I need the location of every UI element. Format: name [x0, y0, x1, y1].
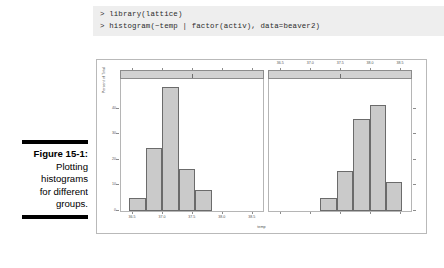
top-axis-tick-label: 38.0	[367, 61, 374, 65]
bottom-axis-tick	[340, 212, 341, 214]
code-line-2: > histogram(~temp | factor(activ), data=…	[100, 21, 444, 33]
histogram-bar	[195, 190, 211, 211]
bottom-axis-tick-label: 36.5	[128, 215, 135, 219]
histogram-bar	[146, 148, 162, 211]
y-axis-tick-mark-right	[413, 159, 416, 160]
y-axis-tick-label: 30	[104, 131, 116, 135]
bottom-axis-tick	[192, 212, 193, 214]
bars-1	[269, 79, 411, 211]
panel-body-0	[120, 79, 264, 212]
histogram-panel-0	[120, 70, 264, 212]
bottom-axis-tick	[400, 212, 401, 214]
top-axis-tick-label: 38.5	[397, 61, 404, 65]
top-axis-tick-label: 37.0	[307, 61, 314, 65]
bottom-axis-tick	[280, 212, 281, 214]
caption-line-1: Plotting	[0, 161, 88, 174]
strip-header-0	[120, 70, 264, 79]
strip-header-1	[268, 70, 412, 79]
r-console-code-block: > library(lattice) > histogram(~temp | f…	[93, 6, 444, 36]
bottom-axis-tick	[222, 212, 223, 214]
histogram-panel-1	[268, 70, 412, 212]
caption-rule-bottom	[22, 215, 88, 219]
bottom-axis-tick-label: 38.0	[218, 215, 225, 219]
histogram-bar	[386, 182, 402, 211]
panel-body-1	[268, 79, 412, 212]
y-axis-tick-mark	[116, 184, 119, 185]
histogram-bar	[320, 198, 336, 211]
caption-line-2: histograms	[0, 173, 88, 186]
y-axis-tick-mark-right	[413, 108, 416, 109]
y-axis-tick-mark	[116, 108, 119, 109]
bottom-axis-tick-label: 37.5	[188, 215, 195, 219]
y-axis-tick-label: 20	[104, 157, 116, 161]
y-axis-tick-label: 10	[104, 182, 116, 186]
x-axis-title: temp	[97, 225, 426, 229]
figure-caption: Figure 15-1: Plotting histograms for dif…	[0, 140, 94, 219]
bottom-axis-tick-label: 38.5	[248, 215, 255, 219]
code-line-1: > library(lattice)	[100, 9, 444, 21]
y-axis-tick-labels: 010203040	[103, 82, 116, 210]
histogram-bar	[370, 105, 386, 211]
bottom-axis-tick	[132, 212, 133, 214]
top-axis-tick-label: 37.5	[337, 61, 344, 65]
histogram-bar	[179, 169, 195, 211]
y-axis-tick-mark	[116, 159, 119, 160]
plot-inner-area: Percent of Total temp 010203040 36.537.0…	[97, 60, 426, 233]
caption-rule-top	[22, 140, 88, 144]
y-axis-tick-mark-right	[413, 210, 416, 211]
strip-tick-1	[340, 74, 341, 78]
bars-0	[121, 79, 263, 211]
bottom-axis-tick-label: 37.0	[158, 215, 165, 219]
y-axis-tick-mark	[116, 133, 119, 134]
histogram-bar	[337, 171, 353, 211]
bottom-axis-tick	[162, 212, 163, 214]
panel-row	[120, 70, 412, 212]
histogram-bar	[353, 119, 369, 211]
y-axis-tick-marks-right	[412, 82, 416, 210]
bottom-axis-tick	[310, 212, 311, 214]
bottom-axis-tick	[252, 212, 253, 214]
figure-number: Figure 15-1:	[0, 148, 88, 161]
histogram-bar	[129, 198, 145, 211]
strip-tick-0	[192, 74, 193, 78]
y-axis-tick-label: 40	[104, 106, 116, 110]
y-axis-tick-mark-right	[413, 133, 416, 134]
lattice-histogram-figure: Percent of Total temp 010203040 36.537.0…	[96, 59, 427, 234]
y-axis-tick-label: 0	[104, 208, 116, 212]
y-axis-tick-mark	[116, 210, 119, 211]
y-axis-tick-mark-right	[413, 184, 416, 185]
bottom-axis-tick	[370, 212, 371, 214]
top-axis-tick-label: 36.5	[277, 61, 284, 65]
caption-line-3: for different	[0, 186, 88, 199]
caption-line-4: groups.	[0, 198, 88, 211]
top-x-axis: 36.537.037.538.038.5	[120, 60, 412, 70]
histogram-bar	[162, 87, 178, 211]
bottom-x-axis: 36.537.037.538.038.5	[120, 212, 412, 224]
